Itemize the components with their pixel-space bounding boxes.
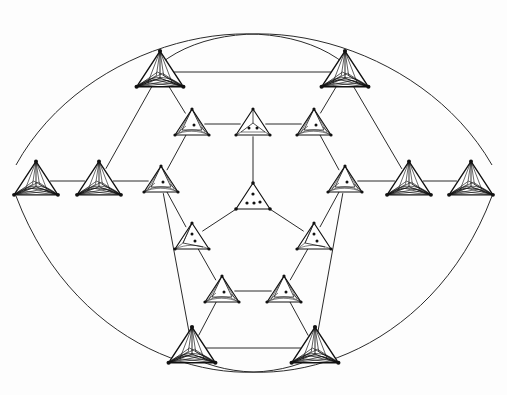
edge-b1-i_bl [199,302,216,335]
node-i_bl-spiral1[interactable] [203,274,240,303]
node-h_ml-spiral1[interactable] [142,164,179,193]
figure-root [0,0,507,395]
node-r1-dense[interactable] [447,159,495,196]
tetrahedron-graph-diagram [0,0,507,395]
edge-h_mr-h_lr [320,192,339,227]
edge-h_ml-h_ul [167,135,186,170]
arc-edge-b2-l1 [16,196,315,372]
node-l1-dense[interactable] [12,159,60,196]
node-c-plain4[interactable] [234,181,272,211]
edge-t2-h_ur [321,84,338,113]
edge-h_mr-h_ur [320,135,339,170]
node-h_ur-spiral1[interactable] [295,107,332,136]
edge-b1-h_ml [163,194,189,334]
arc-edge-b1-r1 [192,196,492,372]
edge-h_ml-h_ll [167,192,186,227]
node-h_uc-ysplit2[interactable] [234,107,271,136]
edge-b2-h_mr [318,194,343,334]
node-h_mr-spiral1[interactable] [326,164,363,193]
edge-b2-i_br [290,302,308,335]
edge-t2-r2 [352,84,401,168]
node-l2-dense[interactable] [75,159,123,196]
node-b1-dense[interactable] [167,325,218,365]
node-h_lr-spiral2[interactable] [295,221,332,250]
node-layer [12,49,495,365]
node-i_br-spiral1[interactable] [265,274,302,303]
node-h_ul-spiral1[interactable] [173,107,210,136]
node-r2-dense[interactable] [385,159,433,196]
edge-h_lr-i_br [290,249,307,280]
edge-t1-l2 [106,85,153,169]
node-h_ll-spiral2[interactable] [173,221,210,250]
node-b2-dense[interactable] [290,325,341,365]
edge-h_ll-i_bl [198,249,215,280]
